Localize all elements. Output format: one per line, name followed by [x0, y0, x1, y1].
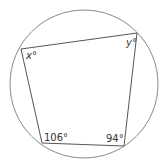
angle-label-94: 94° — [106, 133, 124, 144]
circumscribed-circle — [10, 10, 158, 158]
angle-label-y: y° — [125, 37, 137, 48]
angle-label-x: x° — [25, 50, 37, 61]
angle-label-106: 106° — [44, 132, 68, 143]
quadrilateral — [21, 33, 137, 146]
cyclic-quadrilateral-diagram: x° y° 94° 106° — [0, 0, 168, 164]
